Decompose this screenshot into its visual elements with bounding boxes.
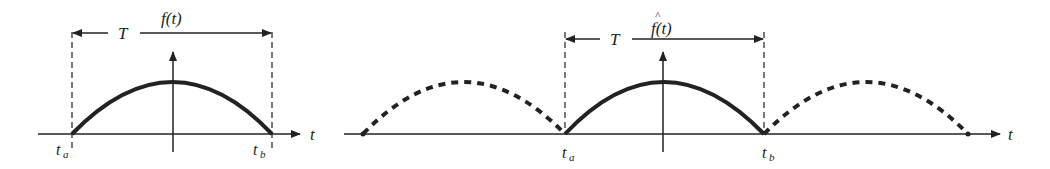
diagram: T f(t) t t a t b T f(t) ^ t t a t b [0, 0, 1050, 169]
ta-label: t [56, 141, 61, 158]
right-panel: T f(t) ^ t t a t b [344, 9, 1014, 163]
tb-subscript: b [769, 151, 775, 163]
function-label: f(t) [651, 19, 672, 38]
period-label: T [610, 30, 621, 49]
endpoint-dot [966, 132, 971, 137]
periodic-copy-left [363, 82, 565, 134]
periodic-copy-right [764, 82, 968, 134]
function-curve [72, 82, 272, 134]
tb-label: t [253, 141, 258, 158]
periodic-extension-diagram: T f(t) t t a t b T f(t) ^ t t a t b [0, 0, 1050, 169]
ta-subscript: a [569, 151, 575, 163]
t-axis-label: t [1008, 125, 1014, 144]
ta-label: t [562, 144, 567, 161]
ta-subscript: a [63, 148, 69, 160]
tb-label: t [762, 144, 767, 161]
endpoint-dot [361, 132, 366, 137]
t-axis-label: t [310, 125, 316, 144]
period-label: T [118, 24, 129, 43]
tb-subscript: b [260, 148, 266, 160]
function-label: f(t) [161, 9, 182, 28]
function-curve [565, 82, 764, 134]
left-panel: T f(t) t t a t b [38, 9, 316, 160]
